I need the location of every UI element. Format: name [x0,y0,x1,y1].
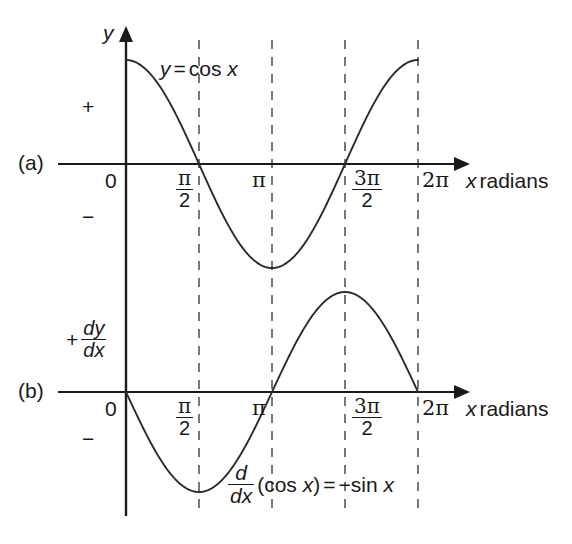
panel-b-y-axis-label: + dy dx [66,318,106,361]
panel-a-tick-three-half-pi: 3π 2 [352,168,382,211]
curve-label-b-equals: = [323,474,335,495]
y-axis-arrowhead [119,26,133,42]
panel-a-x-axis-caption: x radians [466,170,548,191]
fraction-dy-dx: dy dx [81,318,106,361]
panel-b-curve-label: d dx (cos x) = −sin x [228,462,394,507]
panel-b-tick-three-half-pi: 3π 2 [352,396,382,439]
dashed-guide-lines [199,40,418,516]
panel-b-tick-half-pi: π 2 [176,396,193,439]
fraction-half-pi-b: π 2 [176,396,193,439]
panel-b-tick-pi: π [252,398,266,419]
curve-label-a-rhs: cos x [189,58,238,79]
panel-a-x-axis-symbol: x [466,170,477,191]
panel-b-x-axis-symbol: x [466,398,477,419]
panel-a-minus-sign: − [82,206,94,227]
panel-b-tag: (b) [18,380,44,401]
fraction-half-pi-a: π 2 [176,168,193,211]
panel-b-x-axis-unit: radians [480,398,549,419]
panel-a-tick-zero: 0 [105,170,117,191]
axes-group [58,26,470,516]
panel-b-tick-zero: 0 [105,398,117,419]
panel-b-tick-two-pi: 2π [422,398,449,419]
curve-label-a-equals: = [174,58,186,79]
curve-label-b-argument: (cos x) [257,474,320,495]
fraction-three-half-pi-b: 3π 2 [352,396,382,439]
panel-a-curve-label: y = cos x [160,58,238,79]
panel-a-tick-pi: π [252,170,266,191]
panel-b-axis-plus-sign: + [66,329,78,350]
panel-a-tag: (a) [18,152,44,173]
curve-label-a-lhs: y [160,58,171,79]
panel-b-x-axis-caption: x radians [466,398,548,419]
panel-a-x-axis-unit: radians [480,170,549,191]
fraction-three-half-pi-a: 3π 2 [352,168,382,211]
panel-a-tick-half-pi: π 2 [176,168,193,211]
panel-a-tick-two-pi: 2π [422,170,449,191]
panel-a-plus-sign: + [82,96,94,117]
panel-a-y-axis-label: y [103,22,114,43]
curve-label-b-rhs: −sin x [338,474,393,495]
fraction-d-dx: d dx [228,462,254,507]
panel-b-minus-sign: − [82,428,94,449]
